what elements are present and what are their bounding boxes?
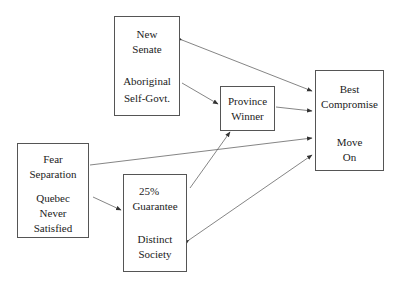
node-label-line: Satisfied — [18, 221, 88, 236]
node-label-line: Guarantee — [124, 199, 186, 214]
node-best-compromise: Best Compromise Move On — [315, 70, 384, 171]
node-label-line: Province — [221, 94, 274, 109]
node-label-line: Self-Govt. — [115, 90, 179, 107]
node-fear-separation: Fear Separation Quebec Never Satisfied — [17, 143, 89, 238]
node-label-line: Move — [316, 135, 383, 150]
node-province-winner: Province Winner — [220, 86, 275, 131]
node-label-line: 25% — [124, 184, 186, 199]
node-label-line: Winner — [221, 109, 274, 124]
node-label-line: Society — [124, 247, 186, 262]
node-label-line: Fear — [18, 152, 88, 167]
node-label-line: Senate — [115, 42, 179, 57]
node-label-line: Best — [316, 82, 383, 97]
edge-senate-province — [182, 83, 218, 104]
node-label-line: Quebec — [18, 191, 88, 206]
node-label-line: On — [316, 150, 383, 165]
edge-guarantee-compromise — [189, 155, 312, 240]
edge-senate-compromise — [182, 40, 312, 91]
node-new-senate: New Senate Aboriginal Self-Govt. — [114, 16, 180, 116]
edge-province-compromise — [276, 107, 312, 111]
edge-guarantee-province — [190, 132, 230, 188]
node-label-line: Never — [18, 206, 88, 221]
node-label-line: Separation — [18, 167, 88, 182]
node-label-line: Aboriginal — [115, 73, 179, 90]
node-label-line: Distinct — [124, 232, 186, 247]
edge-fear-guarantee — [93, 197, 121, 210]
node-label-line: New — [115, 27, 179, 42]
edge-fear-compromise — [90, 138, 312, 165]
node-label-line: Compromise — [316, 97, 383, 112]
node-guarantee: 25% Guarantee Distinct Society — [123, 174, 187, 272]
